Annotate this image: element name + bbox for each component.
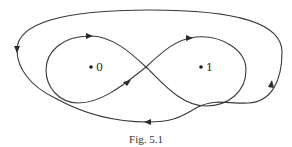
direction-arrows — [14, 33, 274, 125]
figure: 0 1 Fig. 5.1 — [0, 0, 292, 147]
point-label: 1 — [206, 61, 213, 74]
point-dot-icon — [199, 65, 203, 69]
diagram-canvas: 0 1 — [0, 0, 292, 147]
point-label: 0 — [96, 61, 103, 74]
point-dot-icon — [89, 65, 93, 69]
outer-loop-curve — [17, 10, 282, 122]
arrow-icon — [268, 80, 274, 88]
arrow-icon — [14, 46, 20, 53]
arrow-icon — [186, 35, 193, 41]
arrow-icon — [86, 33, 93, 39]
point-0: 0 — [89, 61, 103, 74]
point-1: 1 — [199, 61, 213, 74]
arrow-icon — [144, 119, 151, 125]
figure-eight-curve — [46, 36, 246, 106]
arrow-icon — [123, 80, 131, 86]
figure-caption: Fig. 5.1 — [0, 133, 292, 145]
